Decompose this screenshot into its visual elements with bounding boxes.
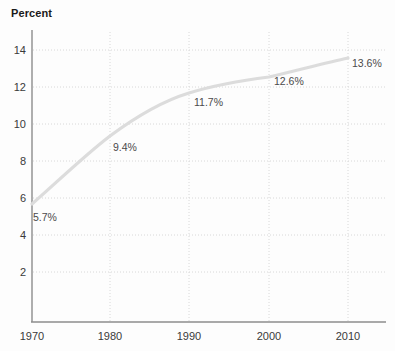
x-tick-label-2000: 2000 <box>246 330 292 342</box>
data-label-1980: 9.4% <box>113 141 137 153</box>
y-tick-label-8: 8 <box>4 155 26 167</box>
horizontal-gridlines <box>33 50 385 272</box>
data-label-1970: 5.7% <box>33 211 57 223</box>
x-tick-label-1980: 1980 <box>87 330 133 342</box>
vertical-gridlines <box>110 32 348 322</box>
y-tick-label-2: 2 <box>4 266 26 278</box>
y-tick-label-10: 10 <box>4 118 26 130</box>
y-tick-label-14: 14 <box>4 44 26 56</box>
x-tick-label-1990: 1990 <box>166 330 212 342</box>
chart-plot-area <box>0 0 395 351</box>
x-tick-label-2010: 2010 <box>325 330 371 342</box>
x-tick-label-1970: 1970 <box>9 330 55 342</box>
data-label-1990: 11.7% <box>194 96 223 108</box>
data-label-2000: 12.6% <box>274 75 304 87</box>
y-tick-label-4: 4 <box>4 229 26 241</box>
y-tick-label-12: 12 <box>4 81 26 93</box>
y-tick-label-6: 6 <box>4 192 26 204</box>
data-label-2010: 13.6% <box>352 57 382 69</box>
chart-container: Percent 14 12 10 8 6 4 2 1970 19 <box>0 0 395 351</box>
